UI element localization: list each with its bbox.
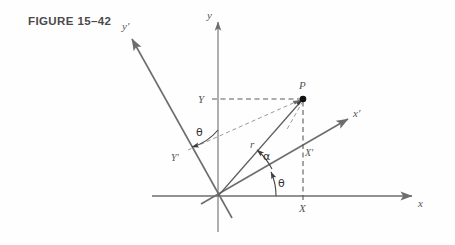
x-prime-axis-label: x′ <box>352 107 361 119</box>
point-p-label: P <box>298 79 306 91</box>
angle-alpha-label: α <box>263 150 270 163</box>
x-axis-label: x <box>417 197 423 209</box>
y-axis-label: y <box>206 9 212 21</box>
y-prime-axis-line <box>132 39 232 218</box>
coord-Y-prime-label: Y′ <box>171 152 180 163</box>
radius-vector-r <box>218 99 303 196</box>
dash-Y-prime-parallel <box>188 100 300 150</box>
angle-arcs <box>192 130 276 196</box>
point-p-dot <box>300 96 307 103</box>
angle-theta-upper-label: θ <box>196 126 203 139</box>
coord-X-prime-label: X′ <box>304 147 314 158</box>
coord-Y-label: Y <box>198 93 206 105</box>
construction-lines <box>188 99 303 200</box>
rotated-axes <box>132 39 348 218</box>
radius-r-label: r <box>250 138 255 150</box>
arc-theta-origin <box>271 172 276 196</box>
radius-vector-group <box>218 99 303 196</box>
angle-theta-origin-label: θ <box>278 177 285 190</box>
y-prime-axis-label: y′ <box>121 20 130 32</box>
coord-X-label: X <box>298 202 307 214</box>
figure-container: FIGURE 15–42 <box>0 0 455 245</box>
axis-labels: y x y′ x′ <box>121 9 423 209</box>
diagram-canvas: P y x y′ x′ Y X Y′ X′ r α θ <box>0 0 455 245</box>
primary-axes <box>152 22 412 232</box>
